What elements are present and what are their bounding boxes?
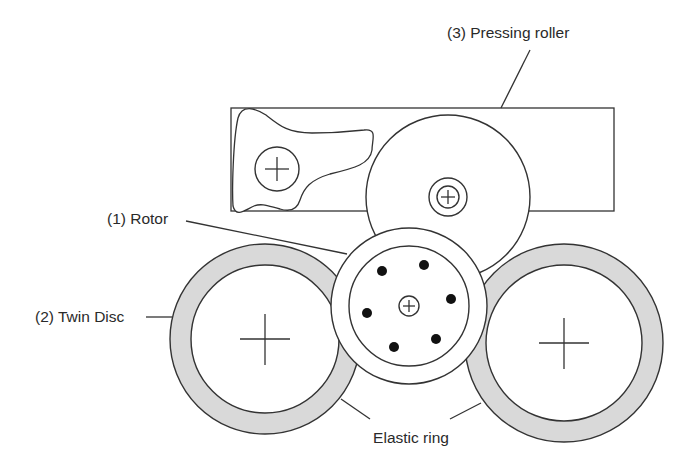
rotor-hole bbox=[431, 334, 441, 344]
rotor-hole bbox=[419, 260, 429, 270]
twin-disc-diagram: (3) Pressing roller (1) Rotor (2) Twin D… bbox=[0, 0, 698, 471]
label-twin-disc: (2) Twin Disc bbox=[35, 308, 125, 325]
label-pressing-roller: (3) Pressing roller bbox=[447, 24, 569, 41]
label-elastic-ring: Elastic ring bbox=[373, 429, 449, 446]
rotor-hole bbox=[389, 342, 399, 352]
leader-elastic-ring-right bbox=[450, 403, 481, 419]
rotor-hole bbox=[362, 308, 372, 318]
rotor-hole bbox=[446, 294, 456, 304]
leader-elastic-ring-left bbox=[341, 399, 370, 419]
rotor-hole bbox=[377, 266, 387, 276]
lever-arm bbox=[233, 109, 374, 213]
leader-pressing-roller bbox=[501, 50, 530, 108]
label-rotor: (1) Rotor bbox=[107, 210, 168, 227]
